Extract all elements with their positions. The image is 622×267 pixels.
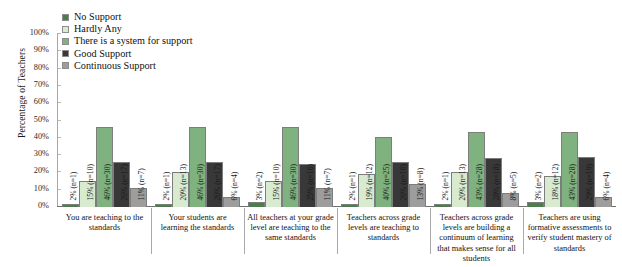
y-tick-label: 100% [30, 29, 49, 37]
bar-column[interactable]: 3% (n=2) [248, 33, 265, 207]
bar-value-label: 46% (n=30) [196, 164, 204, 201]
x-category-label: All teachers at your grade level are tea… [244, 208, 337, 266]
bar-value-label: 2% (n=1) [162, 172, 170, 201]
bar-value-label: 26% (n=17) [213, 164, 221, 201]
bar-column[interactable]: 20% (n=13) [451, 33, 468, 207]
bar-value-label: 26% (n=16) [399, 164, 407, 201]
bar-column[interactable]: 13% (n=8) [409, 33, 426, 207]
bar-value-label: 20% (n=13) [179, 164, 187, 201]
bar-value-label: 3% (n=2) [255, 172, 263, 201]
y-tick-label: 60% [34, 98, 49, 106]
bar-column[interactable]: 2% (n=1) [341, 33, 358, 207]
bar-value-label: 6% (n=4) [230, 172, 238, 201]
bar-value-label: 43% (n=28) [568, 164, 576, 201]
bar-column[interactable]: 8% (n=5) [502, 33, 519, 207]
x-category-label: Teachers are using formative assessments… [523, 208, 616, 266]
bar-value-label: 8% (n=5) [509, 172, 517, 201]
bar-group-bars: 3% (n=2)18% (n=12)43% (n=28)29% (n=19)6%… [523, 33, 616, 207]
bar[interactable] [527, 202, 544, 207]
bar-value-label: 46% (n=30) [289, 164, 297, 201]
bar-column[interactable]: 3% (n=2) [527, 33, 544, 207]
bar-value-label: 15% (n=10) [86, 164, 94, 201]
bar-group: 3% (n=2)18% (n=12)43% (n=28)29% (n=19)6%… [523, 33, 616, 207]
y-tick-label: 50% [34, 115, 49, 123]
x-category-label: You are teaching to the standards [58, 208, 151, 266]
bar-column[interactable]: 46% (n=30) [282, 33, 299, 207]
bar-value-label: 20% (n=13) [458, 164, 466, 201]
bar-column[interactable]: 18% (n=12) [544, 33, 561, 207]
bar-group-bars: 2% (n=1)15% (n=10)46% (n=30)26% (n=17)11… [58, 33, 151, 207]
legend-item[interactable]: No Support [62, 11, 193, 23]
bar-value-label: 11% (n=7) [323, 169, 331, 201]
y-tick-label: 0% [38, 202, 49, 210]
bar-value-label: 2% (n=1) [69, 172, 77, 201]
y-tick-label: 80% [34, 63, 49, 71]
bar[interactable] [434, 204, 451, 207]
bar[interactable] [248, 202, 265, 207]
bar-column[interactable]: 43% (n=28) [561, 33, 578, 207]
bar-column[interactable]: 19% (n=12) [358, 33, 375, 207]
bar-value-label: 2% (n=1) [441, 172, 449, 201]
bar-column[interactable]: 20% (n=13) [172, 33, 189, 207]
bar-group: 2% (n=1)20% (n=13)43% (n=28)28% (n=18)8%… [430, 33, 523, 207]
bar-value-label: 43% (n=28) [475, 164, 483, 201]
bar-group: 3% (n=2)15% (n=10)46% (n=30)25% (n=16)11… [244, 33, 337, 207]
y-tick-label: 70% [34, 81, 49, 89]
bar-column[interactable]: 26% (n=17) [206, 33, 223, 207]
y-tick-label: 30% [34, 150, 49, 158]
legend-swatch-icon [62, 26, 69, 33]
x-axis-category-labels: You are teaching to the standardsYour st… [58, 208, 616, 266]
bar[interactable] [62, 204, 79, 207]
bar-value-label: 11% (n=7) [137, 169, 145, 201]
bar-column[interactable]: 6% (n=4) [223, 33, 240, 207]
bar-column[interactable]: 43% (n=28) [468, 33, 485, 207]
legend-item-label: No Support [74, 12, 121, 22]
grouped-bar-chart: Percentage of Teachers 100%90%80%70%60%5… [0, 0, 622, 267]
bar[interactable] [155, 204, 172, 207]
bar-group-bars: 3% (n=2)15% (n=10)46% (n=30)25% (n=16)11… [244, 33, 337, 207]
bar-value-label: 28% (n=18) [492, 164, 500, 201]
bar-column[interactable]: 26% (n=17) [113, 33, 130, 207]
bar-value-label: 15% (n=10) [272, 164, 280, 201]
bar-column[interactable]: 6% (n=4) [595, 33, 612, 207]
bar[interactable] [341, 204, 358, 207]
bar-column[interactable]: 15% (n=10) [79, 33, 96, 207]
y-tick-label: 40% [34, 133, 49, 141]
y-axis-tick-labels: 100%90%80%70%60%50%40%30%20%10%0% [0, 33, 57, 206]
bar-value-label: 13% (n=8) [416, 168, 424, 201]
bar-value-label: 6% (n=4) [602, 172, 610, 201]
x-category-label: Your students are learning the standards [151, 208, 244, 266]
bar-value-label: 25% (n=16) [306, 164, 314, 201]
bar-column[interactable]: 15% (n=10) [265, 33, 282, 207]
bar-value-label: 26% (n=17) [120, 164, 128, 201]
y-tick-label: 20% [34, 167, 49, 175]
bar-column[interactable]: 46% (n=30) [96, 33, 113, 207]
bar-column[interactable]: 28% (n=18) [485, 33, 502, 207]
y-tick-label: 10% [34, 185, 49, 193]
bar-column[interactable]: 25% (n=16) [299, 33, 316, 207]
x-category-label: Teachers across grade levels are teachin… [337, 208, 430, 266]
bar-value-label: 29% (n=19) [585, 164, 593, 201]
bar-value-label: 18% (n=12) [551, 164, 559, 201]
bar-value-label: 3% (n=2) [534, 172, 542, 201]
bar-value-label: 40% (n=25) [382, 164, 390, 201]
bar-column[interactable]: 46% (n=30) [189, 33, 206, 207]
bar-column[interactable]: 2% (n=1) [434, 33, 451, 207]
bar-column[interactable]: 11% (n=7) [316, 33, 333, 207]
bar-column[interactable]: 26% (n=16) [392, 33, 409, 207]
bar-groups: 2% (n=1)15% (n=10)46% (n=30)26% (n=17)11… [58, 33, 616, 207]
x-category-label: Teachers across grade levels are buildin… [430, 208, 523, 266]
bar-value-label: 46% (n=30) [103, 164, 111, 201]
bar-group: 2% (n=1)20% (n=13)46% (n=30)26% (n=17)6%… [151, 33, 244, 207]
bar-column[interactable]: 29% (n=19) [578, 33, 595, 207]
bar-column[interactable]: 40% (n=25) [375, 33, 392, 207]
bar-value-label: 2% (n=1) [348, 172, 356, 201]
y-tick-label: 90% [34, 46, 49, 54]
bar-value-label: 19% (n=12) [365, 164, 373, 201]
bar-column[interactable]: 11% (n=7) [130, 33, 147, 207]
bar-group: 2% (n=1)19% (n=12)40% (n=25)26% (n=16)13… [337, 33, 430, 207]
bar-column[interactable]: 2% (n=1) [155, 33, 172, 207]
bar-column[interactable]: 2% (n=1) [62, 33, 79, 207]
bar-group-bars: 2% (n=1)19% (n=12)40% (n=25)26% (n=16)13… [337, 33, 430, 207]
bar-group: 2% (n=1)15% (n=10)46% (n=30)26% (n=17)11… [58, 33, 151, 207]
